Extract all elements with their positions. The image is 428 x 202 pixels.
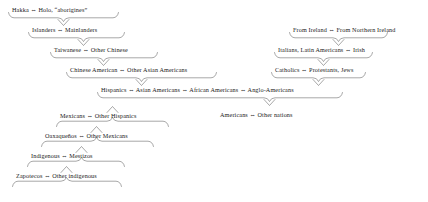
arrow-islanders-to-taiwanese	[78, 40, 89, 46]
node-americans-label: Americans ⇔ Other nations	[218, 112, 295, 118]
brace-hakka	[9, 13, 119, 22]
node-italians[interactable]: Italians, Latin Americans ⇔ Irish	[276, 47, 367, 53]
brace-islanders	[29, 33, 125, 42]
arrow-hakka-to-islanders	[58, 20, 69, 26]
node-hakka-label: Hakka ⇔ Holo, “aborigines”	[10, 7, 89, 13]
node-indigenous[interactable]: Indigenous ⇔ Mestizos	[29, 153, 95, 159]
node-zapotecos[interactable]: Zapotecos ⇔ Other indigenous	[14, 173, 99, 179]
node-americans[interactable]: Americans ⇔ Other nations	[218, 112, 295, 118]
brace-catholics	[272, 73, 366, 82]
node-taiwanese[interactable]: Taiwanese ⇔ Other Chinese	[52, 47, 130, 53]
node-islanders-label: Islanders ⇔ Mainlanders	[30, 27, 99, 33]
node-catholics-label: Catholics ⇔ Protestants, Jews	[273, 67, 355, 73]
node-mexicans[interactable]: Mexicans ⇔ Other Hispanics	[58, 113, 139, 119]
brace-chinese-american	[67, 73, 217, 82]
arrow-center-to-americans	[264, 100, 275, 106]
arrow-italians-to-catholics	[318, 60, 329, 66]
arrow-from-ireland-to-italians	[333, 40, 344, 46]
brace-center	[98, 93, 343, 102]
arrow-catholics-to-center	[313, 80, 324, 86]
node-taiwanese-label: Taiwanese ⇔ Other Chinese	[52, 47, 130, 53]
node-chinese-american-label: Chinese American ⇔ Other Asian Americans	[68, 67, 189, 73]
arrow-chinese-american-to-center	[136, 80, 147, 86]
node-hakka[interactable]: Hakka ⇔ Holo, “aborigines”	[10, 7, 89, 13]
brace-taiwanese	[51, 53, 158, 62]
node-oaxaquenos[interactable]: Oaxaqueños ⇔ Other Mexicans	[43, 133, 130, 139]
node-indigenous-label: Indigenous ⇔ Mestizos	[29, 153, 95, 159]
brace-from-ireland	[290, 33, 388, 42]
node-islanders[interactable]: Islanders ⇔ Mainlanders	[30, 27, 99, 33]
node-mexicans-label: Mexicans ⇔ Other Hispanics	[58, 113, 139, 119]
node-italians-label: Italians, Latin Americans ⇔ Irish	[276, 47, 367, 53]
node-from-ireland[interactable]: From Ireland ⇔ From Northern Ireland	[291, 27, 397, 33]
node-hispanics-center-label: Hispanics ⇔ Asian Americans ⇔ African Am…	[99, 87, 296, 93]
brace-italians	[275, 53, 373, 62]
node-catholics[interactable]: Catholics ⇔ Protestants, Jews	[273, 67, 355, 73]
node-chinese-american[interactable]: Chinese American ⇔ Other Asian Americans	[68, 67, 189, 73]
node-zapotecos-label: Zapotecos ⇔ Other indigenous	[14, 173, 99, 179]
node-oaxaquenos-label: Oaxaqueños ⇔ Other Mexicans	[43, 133, 130, 139]
arrow-taiwanese-to-chinese-american	[98, 60, 109, 66]
node-hispanics-center[interactable]: Hispanics ⇔ Asian Americans ⇔ African Am…	[99, 87, 296, 93]
node-from-ireland-label: From Ireland ⇔ From Northern Ireland	[291, 27, 397, 33]
diagram-canvas: Hakka ⇔ Holo, “aborigines” Islanders ⇔ M…	[0, 0, 428, 202]
